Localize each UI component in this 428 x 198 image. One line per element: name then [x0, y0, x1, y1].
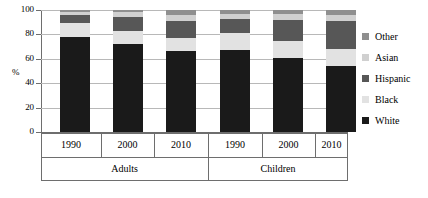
bar-segment-black[interactable]	[273, 41, 303, 58]
legend-item-label: Asian	[375, 53, 398, 63]
bar-column[interactable]	[166, 10, 196, 132]
x-axis-year-label: 2010	[154, 133, 208, 157]
legend-item[interactable]: White	[362, 110, 428, 131]
legend-item-label: Hispanic	[375, 74, 411, 84]
legend-swatch-other	[362, 33, 369, 40]
axis-horizontal-rule-2	[41, 180, 348, 181]
y-axis-tick-label: 40	[6, 78, 34, 87]
x-axis-year-label: 2010	[315, 133, 348, 157]
legend-swatch-asian	[362, 54, 369, 61]
bar-segment-white[interactable]	[220, 50, 250, 132]
legend-item-label: White	[375, 116, 399, 126]
bar-column[interactable]	[220, 10, 250, 132]
x-axis-year-label: 2000	[101, 133, 154, 157]
bar-segment-black[interactable]	[326, 49, 356, 66]
legend-item[interactable]: Asian	[362, 47, 428, 68]
bar-segment-hispanic[interactable]	[113, 17, 143, 30]
y-axis-tick-label: 60	[6, 54, 34, 63]
bar-segment-hispanic[interactable]	[220, 19, 250, 34]
x-axis-year-label: 2000	[262, 133, 315, 157]
legend-item[interactable]: Other	[362, 26, 428, 47]
legend-item-label: Other	[375, 32, 398, 42]
y-axis-tick-label: 100	[6, 5, 34, 14]
bar-column[interactable]	[273, 10, 303, 132]
bar-column[interactable]	[60, 10, 90, 132]
bar-segment-black[interactable]	[220, 33, 250, 50]
stacked-bar-chart: % 020406080100 199020002010199020002010A…	[0, 0, 428, 198]
y-axis-tick-label: 20	[6, 103, 34, 112]
bar-segment-hispanic[interactable]	[166, 21, 196, 38]
y-axis-tick-label: 80	[6, 29, 34, 38]
legend-swatch-hispanic	[362, 75, 369, 82]
legend-item-label: Black	[375, 95, 398, 105]
x-axis-group-label: Adults	[41, 157, 208, 180]
bar-segment-hispanic[interactable]	[273, 20, 303, 41]
bar-segment-white[interactable]	[326, 66, 356, 132]
bar-segment-white[interactable]	[166, 51, 196, 132]
bar-segment-black[interactable]	[113, 31, 143, 44]
y-axis-tick-label: 0	[6, 127, 34, 136]
bar-segment-black[interactable]	[60, 23, 90, 36]
bar-column[interactable]	[326, 10, 356, 132]
bar-segment-hispanic[interactable]	[326, 21, 356, 49]
plot-area	[41, 10, 348, 132]
bar-segment-white[interactable]	[60, 37, 90, 132]
x-axis-group-label: Children	[208, 157, 348, 180]
bar-segment-hispanic[interactable]	[60, 15, 90, 24]
bar-segment-black[interactable]	[166, 38, 196, 51]
legend-item[interactable]: Black	[362, 89, 428, 110]
x-axis-year-label: 1990	[208, 133, 262, 157]
bar-segment-white[interactable]	[113, 44, 143, 132]
x-axis-year-label: 1990	[41, 133, 101, 157]
bar-segment-white[interactable]	[273, 58, 303, 132]
legend-item[interactable]: Hispanic	[362, 68, 428, 89]
bar-column[interactable]	[113, 10, 143, 132]
y-axis-title: %	[12, 68, 20, 77]
legend-swatch-white	[362, 117, 369, 124]
legend: OtherAsianHispanicBlackWhite	[362, 26, 428, 131]
legend-swatch-black	[362, 96, 369, 103]
category-axis: 199020002010199020002010AdultsChildren	[41, 132, 348, 181]
